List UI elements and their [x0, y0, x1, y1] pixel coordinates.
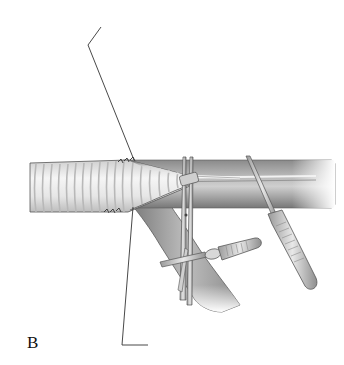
leader-line-top [88, 27, 134, 160]
illustration-canvas [0, 0, 344, 365]
leader-line-bottom [122, 207, 148, 345]
surgical-illustration: B [0, 0, 344, 365]
panel-label: B [27, 334, 38, 351]
